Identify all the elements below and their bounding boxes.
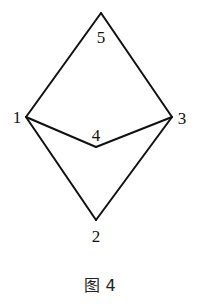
node-label-4: 4 <box>92 126 101 145</box>
edge-5-3 <box>101 13 172 117</box>
node-label-5: 5 <box>97 28 106 47</box>
figure-caption: 图 4 <box>84 276 115 295</box>
node-label-1: 1 <box>13 108 22 127</box>
node-label-2: 2 <box>92 227 101 246</box>
graph-diagram: 12345 图 4 <box>0 0 205 308</box>
node-label-3: 3 <box>178 109 187 128</box>
edge-1-5 <box>26 13 101 117</box>
